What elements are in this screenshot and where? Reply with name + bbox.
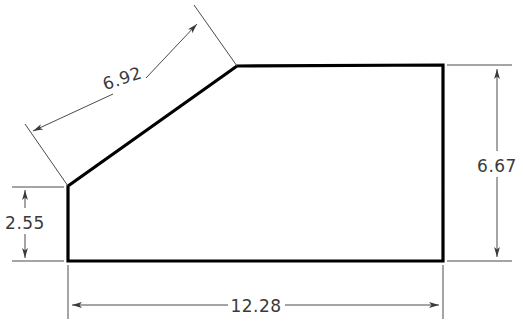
part-outline-group bbox=[68, 65, 443, 261]
dimension-line-slant-lower bbox=[33, 94, 113, 131]
dimension-label-left-height: 2.55 bbox=[5, 213, 45, 233]
dimension-label-right-height: 6.67 bbox=[477, 156, 517, 176]
dimension-slant-length: 6.92 bbox=[25, 5, 237, 186]
dimension-left-height: 2.55 bbox=[5, 187, 64, 261]
dimension-right-height: 6.67 bbox=[447, 65, 517, 261]
dimension-overall-width: 12.28 bbox=[68, 265, 443, 319]
dimension-label-slant-length: 6.92 bbox=[100, 63, 144, 94]
technical-drawing-canvas: 6.92 2.55 6.67 12.28 bbox=[0, 0, 523, 328]
dimension-label-overall-width: 12.28 bbox=[230, 296, 281, 316]
extension-line-slant-lower bbox=[25, 124, 68, 186]
part-outline bbox=[68, 65, 443, 261]
drawing-svg: 6.92 2.55 6.67 12.28 bbox=[0, 0, 523, 328]
extension-line-slant-upper bbox=[194, 5, 237, 66]
dimension-line-slant-upper bbox=[146, 24, 197, 78]
